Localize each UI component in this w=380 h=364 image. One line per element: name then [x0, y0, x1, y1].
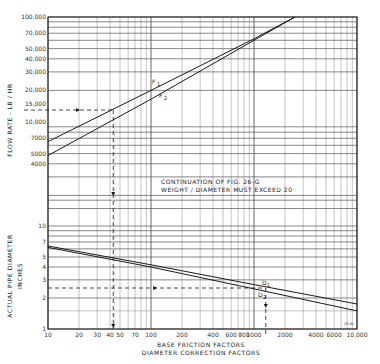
arrow-right-icon	[153, 286, 157, 290]
weight-diameter-note: WEIGHT / DIAMETER MUST EXCEED 20	[161, 186, 293, 193]
series-line-f1	[48, 17, 295, 142]
arrow-right-icon	[76, 108, 80, 112]
diameter-tick-label: 2	[42, 294, 46, 301]
diameter-tick-label: 5	[42, 253, 46, 260]
flow-tick-label: 70,000	[25, 29, 46, 36]
x-tick-label: 4000	[308, 331, 323, 338]
plot-border	[48, 17, 357, 329]
x-axis-title-friction: BASE FRICTION FACTORS	[157, 341, 245, 348]
x-tick-label: 400	[207, 331, 219, 338]
flow-tick-label: 5000	[31, 150, 46, 157]
diameter-tick-label: 7	[42, 238, 46, 245]
arrow-down-icon	[264, 304, 268, 308]
flow-tick-label: 10,000	[25, 118, 46, 125]
flow-tick-label: 50,000	[25, 45, 46, 52]
d1-subscript: 1	[267, 282, 270, 288]
x-tick-label: 30	[93, 331, 101, 338]
x-tick-label: 70	[131, 331, 139, 338]
flow-tick-label: 30,000	[25, 68, 46, 75]
flow-tick-label: 20,000	[25, 86, 46, 93]
x-tick-label: 2000	[277, 331, 292, 338]
x-axis-title-diameter-correction: DIAMETER CORRECTION FACTORS	[142, 349, 260, 356]
flow-tick-label: 100,000	[21, 13, 46, 20]
f2-label: F	[159, 92, 163, 99]
flow-tick-label: 15,000	[25, 100, 46, 107]
x-tick-label: 1000	[246, 331, 261, 338]
x-tick-label: 200	[176, 331, 188, 338]
diameter-tick-label: 1	[42, 325, 46, 332]
diameter-tick-label: 4	[42, 263, 46, 270]
f2-subscript: 2	[164, 95, 167, 101]
y-axis-title-diameter-units: INCHES	[16, 263, 23, 289]
plot-frame	[48, 17, 357, 329]
grid-lines	[48, 17, 357, 329]
flow-tick-label: 4000	[31, 160, 46, 167]
x-tick-label: 20	[75, 331, 83, 338]
d2-subscript: 2	[263, 294, 266, 300]
legend-d2: D 2	[258, 291, 266, 300]
x-tick-label: 6000	[327, 331, 342, 338]
x-tick-label: 10	[44, 331, 52, 338]
diameter-tick-label: 3	[42, 276, 46, 283]
flow-tick-label: 7000	[31, 134, 46, 141]
x-tick-label: 100	[145, 331, 157, 338]
y-axis-title-flow: FLOW RATE - LB / HR	[6, 83, 13, 157]
legend-f2: F 2	[159, 92, 167, 101]
series-line-f2	[48, 17, 295, 156]
continuation-note: CONTINUATION OF FIG. 26-G	[161, 178, 260, 185]
chart-canvas: 1020304050701002004006008001000200040006…	[0, 0, 380, 364]
x-tick-label: 600	[225, 331, 237, 338]
x-tick-label: 50	[116, 331, 124, 338]
tick-labels: 1020304050701002004006008001000200040006…	[21, 13, 367, 338]
f1-label: F	[152, 78, 156, 85]
flow-tick-label: 40,000	[25, 55, 46, 62]
y-axis-title-diameter: ACTUAL PIPE DIAMETER	[6, 234, 13, 317]
f1-subscript: 1	[157, 81, 160, 87]
series-line-d1	[48, 246, 357, 304]
x-tick-label: 10,000	[347, 331, 368, 338]
x-tick-label: 40	[106, 331, 114, 338]
legend-f1: F 1	[152, 78, 160, 87]
diameter-tick-label: 10	[38, 222, 46, 229]
